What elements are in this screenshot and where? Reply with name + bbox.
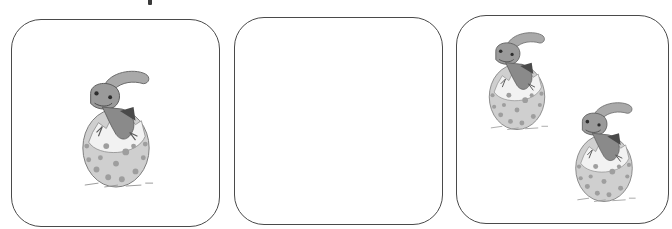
panel-3 — [456, 15, 669, 224]
hatching-dinosaur-egg-icon — [569, 100, 639, 204]
hatching-dinosaur-egg-icon — [483, 30, 551, 132]
panel-1 — [11, 19, 220, 227]
hatching-dinosaur-egg-icon — [77, 67, 155, 191]
panel-2-empty — [234, 17, 443, 225]
cropped-text-fragment — [148, 0, 152, 5]
